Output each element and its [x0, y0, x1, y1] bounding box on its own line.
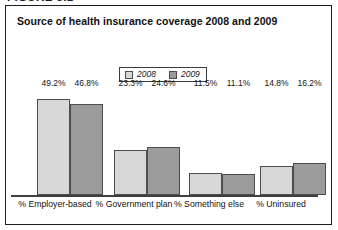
bar-value-2008-employer-based: 49.2% [41, 79, 65, 88]
category-label-uninsured: % Uninsured [242, 200, 320, 209]
bar-value-2008-government-plan: 23.3% [118, 79, 142, 88]
bar-value-2009-government-plan: 24.6% [151, 79, 175, 88]
category-label-employer-based: % Employer-based [11, 200, 99, 209]
category-label-something-else: % Something else [165, 200, 253, 209]
bar-wrap-2008-something-else: 11.5% [189, 88, 222, 195]
bar-wrap-2009-uninsured: 16.2% [293, 88, 326, 195]
bar-value-2009-uninsured: 16.2% [297, 79, 321, 88]
bar-2008-uninsured [260, 166, 293, 195]
bar-2009-employer-based [70, 104, 103, 195]
bar-group-uninsured: 14.8% 16.2% [260, 88, 326, 195]
plot-area: 49.2% 46.8% 23.3% 24.6% 11.5% [11, 88, 316, 195]
bar-2008-government-plan [114, 150, 147, 195]
bar-wrap-2009-government-plan: 24.6% [147, 88, 180, 195]
bar-value-2009-employer-based: 46.8% [74, 79, 98, 88]
figure-caption: FIGURE 5.1 [7, 0, 74, 3]
axis-baseline [11, 195, 318, 197]
bar-2009-government-plan [147, 147, 180, 195]
bar-value-2008-uninsured: 14.8% [264, 79, 288, 88]
bar-wrap-2008-government-plan: 23.3% [114, 88, 147, 195]
bar-2009-uninsured [293, 163, 326, 195]
chart-title: Source of health insurance coverage 2008… [17, 15, 277, 27]
bar-wrap-2009-employer-based: 46.8% [70, 88, 103, 195]
bar-group-something-else: 11.5% 11.1% [189, 88, 255, 195]
bar-wrap-2008-uninsured: 14.8% [260, 88, 293, 195]
figure-page: FIGURE 5.1 Source of health insurance co… [0, 0, 338, 230]
bar-2009-something-else [222, 174, 255, 195]
bar-2008-something-else [189, 173, 222, 195]
bar-wrap-2008-employer-based: 49.2% [37, 88, 70, 195]
bar-2008-employer-based [37, 99, 70, 195]
bar-wrap-2009-something-else: 11.1% [222, 88, 255, 195]
bar-group-employer-based: 49.2% 46.8% [37, 88, 103, 195]
bar-value-2008-something-else: 11.5% [194, 79, 217, 88]
bar-group-government-plan: 23.3% 24.6% [114, 88, 180, 195]
category-axis: % Employer-based % Government plan % Som… [11, 200, 320, 214]
bar-value-2009-something-else: 11.1% [227, 79, 250, 88]
